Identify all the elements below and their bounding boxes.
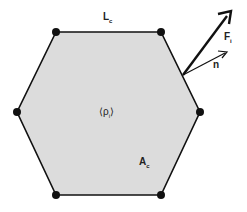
hexagon-diagram [0, 0, 247, 212]
force-label: Fi [224, 32, 232, 44]
normal-label: n [213, 60, 219, 70]
normal-arrow [183, 51, 227, 75]
density-label: ⟨ρi⟩ [99, 107, 114, 119]
edge-length-label: Lc [103, 12, 112, 24]
area-label: Ac [139, 157, 150, 169]
